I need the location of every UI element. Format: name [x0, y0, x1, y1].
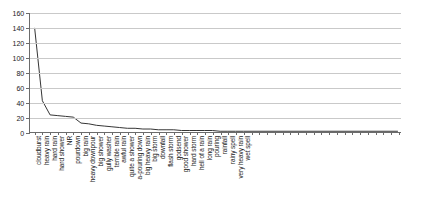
x-axis-tick — [120, 132, 121, 135]
x-axis-tick — [244, 132, 245, 135]
y-axis-tick — [26, 43, 30, 44]
y-axis-tick-label: 60 — [16, 85, 24, 92]
x-axis-tick — [298, 132, 299, 135]
x-axis-tick — [259, 132, 260, 135]
x-axis-tick — [391, 132, 392, 135]
x-axis-tick — [174, 132, 175, 135]
y-axis-labels: 020406080100120140160 — [0, 0, 24, 214]
grid-line — [30, 28, 401, 29]
x-axis-tick — [58, 132, 59, 135]
grid-line — [30, 43, 401, 44]
x-axis-tick — [104, 132, 105, 135]
x-axis-tick — [267, 132, 268, 135]
x-axis-category-label: rainy spell — [230, 136, 237, 164]
x-axis-tick — [89, 132, 90, 135]
x-axis-tick — [143, 132, 144, 135]
x-axis-category-label: quite a shower — [129, 136, 136, 177]
x-axis-tick — [221, 132, 222, 135]
x-axis-category-label: big shower — [98, 136, 105, 166]
x-axis-tick — [314, 132, 315, 135]
x-axis-category-label: a-pouring down — [137, 136, 144, 179]
y-axis-tick — [26, 133, 30, 134]
x-axis-tick — [376, 132, 377, 135]
y-axis-tick — [26, 103, 30, 104]
x-axis-category-label: cloudburst — [36, 136, 43, 165]
x-axis-category-label: good shower — [183, 136, 190, 172]
x-axis-tick — [97, 132, 98, 135]
x-axis-tick — [321, 132, 322, 135]
y-axis-tick — [26, 73, 30, 74]
x-axis-tick — [151, 132, 152, 135]
y-axis-tick-label: 40 — [16, 100, 24, 107]
grid-line — [30, 58, 401, 59]
x-axis-tick — [329, 132, 330, 135]
y-axis-tick — [26, 13, 30, 14]
x-axis-category-label: downfall — [160, 136, 167, 159]
x-axis-category-label: flash storm — [168, 136, 175, 167]
x-axis-tick — [352, 132, 353, 135]
x-axis-tick — [197, 132, 198, 135]
x-axis-category-label: hard storm — [191, 136, 198, 166]
x-axis-tick — [383, 132, 384, 135]
x-axis-tick — [345, 132, 346, 135]
y-axis-tick-label: 0 — [20, 130, 24, 137]
x-axis-tick — [50, 132, 51, 135]
x-axis-tick — [73, 132, 74, 135]
y-axis-tick — [26, 58, 30, 59]
x-axis-category-label: heavy rain — [44, 136, 51, 165]
x-axis-labels: cloudburstheavy rainhard rainhard shower… — [29, 136, 401, 214]
x-axis-tick — [66, 132, 67, 135]
x-axis-tick — [42, 132, 43, 135]
grid-line — [30, 118, 401, 119]
x-axis-tick — [190, 132, 191, 135]
grid-line — [30, 73, 401, 74]
x-axis-category-label: NR — [67, 136, 74, 145]
x-axis-tick — [360, 132, 361, 135]
x-axis-category-label: pouring — [214, 136, 221, 157]
y-axis-tick-label: 20 — [16, 115, 24, 122]
x-axis-tick — [236, 132, 237, 135]
x-axis-category-label: heavy downpour — [90, 136, 97, 182]
grid-line — [30, 88, 401, 89]
grid-line — [30, 103, 401, 104]
x-axis-tick — [213, 132, 214, 135]
x-axis-category-label: pourdown — [75, 136, 82, 164]
x-axis-tick — [283, 132, 284, 135]
y-axis-tick-label: 120 — [13, 40, 24, 47]
y-axis-tick-label: 160 — [13, 10, 24, 17]
x-axis-tick — [205, 132, 206, 135]
x-axis-tick — [306, 132, 307, 135]
x-axis-tick — [112, 132, 113, 135]
x-axis-tick — [399, 132, 400, 135]
x-axis-tick — [182, 132, 183, 135]
x-axis-tick — [159, 132, 160, 135]
x-axis-tick — [275, 132, 276, 135]
x-axis-category-label: hard shower — [59, 136, 66, 171]
x-axis-tick — [228, 132, 229, 135]
x-axis-category-label: big storm — [152, 136, 159, 162]
x-axis-tick — [35, 132, 36, 135]
grid-line — [30, 13, 401, 14]
y-axis-tick — [26, 28, 30, 29]
x-axis-category-label: wet spell — [245, 136, 252, 160]
y-axis-tick-label: 80 — [16, 70, 24, 77]
x-axis-category-label: rainfall — [222, 136, 229, 154]
chart-figure: 020406080100120140160 cloudburstheavy ra… — [0, 0, 435, 214]
x-axis-tick — [135, 132, 136, 135]
y-axis-tick — [26, 88, 30, 89]
x-axis-tick — [368, 132, 369, 135]
x-axis-category-label: hell of a rain — [199, 136, 206, 170]
y-axis-tick-label: 100 — [13, 55, 24, 62]
y-axis-tick-label: 140 — [13, 25, 24, 32]
y-axis-tick — [26, 118, 30, 119]
x-axis-tick — [337, 132, 338, 135]
x-axis-tick — [290, 132, 291, 135]
x-axis-tick — [252, 132, 253, 135]
x-axis-category-label: gully washer — [106, 136, 113, 171]
plot-area — [29, 13, 401, 133]
x-axis-tick — [128, 132, 129, 135]
x-axis-tick — [166, 132, 167, 135]
x-axis-category-label: awful rain — [121, 136, 128, 163]
